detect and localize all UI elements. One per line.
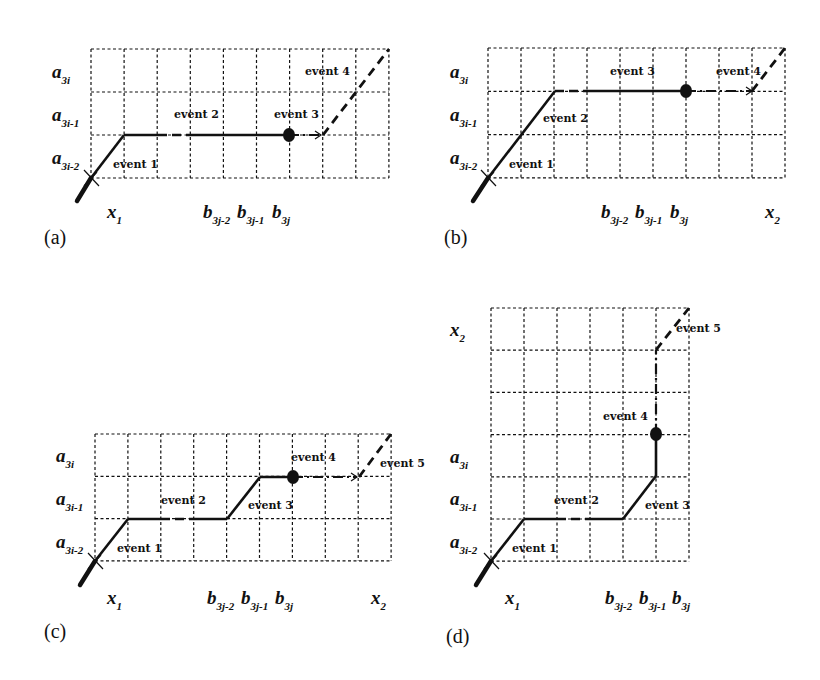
event-label: event 5 (380, 457, 425, 470)
event-label: event 4 (305, 65, 350, 78)
column-label: x2 (764, 201, 781, 226)
column-label: b3j-1 (237, 201, 264, 226)
event-dot-icon (287, 470, 299, 484)
row-label: a3i-2 (52, 147, 80, 172)
column-label: x1 (504, 587, 520, 612)
column-label: b3j-1 (639, 587, 666, 612)
path-solid-segment (91, 135, 124, 178)
event-dot-icon (680, 84, 692, 98)
row-label: a3i-2 (450, 531, 478, 556)
figure: event 1event 2event 3event 4a3ia3i-1a3i-… (0, 0, 820, 680)
event-label: event 2 (161, 494, 206, 507)
column-label: b3j-2 (605, 587, 633, 612)
column-label: b3j-2 (203, 201, 231, 226)
column-label: b3j (272, 201, 291, 226)
column-label: b3j-2 (207, 587, 235, 612)
column-label: x1 (106, 587, 122, 612)
panel-d: event 1event 2event 3event 4event 5x2a3i… (446, 308, 721, 648)
event-dot-icon (283, 128, 295, 142)
panel-tag: (c) (44, 620, 66, 643)
event-label: event 4 (716, 65, 761, 78)
path-solid-segment (227, 477, 260, 519)
panel-tag: (d) (446, 625, 469, 648)
event-label: event 4 (291, 451, 336, 464)
row-label: a3i (450, 446, 469, 471)
event-label: event 3 (610, 65, 655, 78)
row-label: a3i-2 (56, 531, 84, 556)
column-label: b3j-2 (601, 201, 629, 226)
column-label: x2 (370, 587, 387, 612)
column-label: b3j-1 (635, 201, 662, 226)
row-label: a3i (450, 61, 469, 86)
event-label: event 2 (174, 108, 219, 121)
event-label: event 5 (676, 322, 721, 335)
event-label: event 3 (248, 499, 293, 512)
row-label: a3i-2 (450, 147, 478, 172)
path-solid-segment (623, 476, 656, 519)
event-label: event 1 (113, 158, 158, 171)
column-label: b3j (275, 587, 294, 612)
event-label: event 2 (543, 112, 588, 125)
event-label: event 1 (512, 542, 557, 555)
row-label: a3i-1 (56, 488, 83, 513)
column-label: x1 (106, 201, 122, 226)
event-dot-icon (650, 427, 662, 441)
column-label: b3j-1 (241, 587, 268, 612)
row-label: a3i (56, 445, 75, 470)
row-label: a3i-1 (450, 104, 477, 129)
column-label: b3j (672, 587, 691, 612)
path-projected-segment (359, 434, 391, 477)
column-label: b3j (670, 201, 689, 226)
event-label: event 2 (554, 494, 599, 507)
row-label: x2 (449, 319, 466, 344)
row-label: a3i-1 (52, 104, 79, 129)
event-label: event 1 (509, 158, 554, 171)
row-label: a3i-1 (450, 488, 477, 513)
event-label: event 3 (274, 108, 319, 121)
event-label: event 4 (603, 410, 648, 423)
panel-tag: (a) (44, 226, 66, 249)
panel-tag: (b) (444, 226, 467, 249)
panel-c: event 1event 2event 3event 4event 5a3ia3… (44, 434, 425, 643)
panel-a: event 1event 2event 3event 4a3ia3i-1a3i-… (44, 49, 389, 249)
event-label: event 1 (117, 542, 162, 555)
event-label: event 3 (645, 499, 690, 512)
row-label: a3i (52, 61, 71, 86)
panel-b: event 1event 2event 3event 4a3ia3i-1a3i-… (444, 48, 785, 249)
